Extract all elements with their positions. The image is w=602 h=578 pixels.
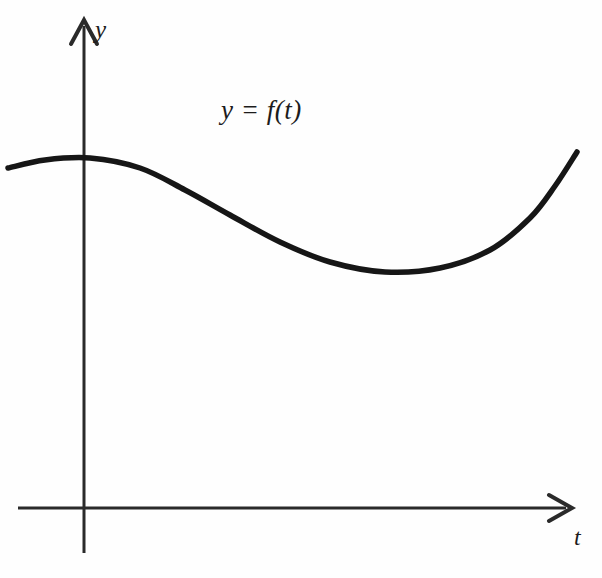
graph-svg xyxy=(0,0,602,578)
y-axis-label: y xyxy=(95,17,106,42)
t-axis-label: t xyxy=(574,525,581,549)
function-equation-label: y = f(t) xyxy=(221,97,302,124)
function-curve xyxy=(8,152,577,272)
figure-canvas: y t y = f(t) xyxy=(0,0,602,578)
